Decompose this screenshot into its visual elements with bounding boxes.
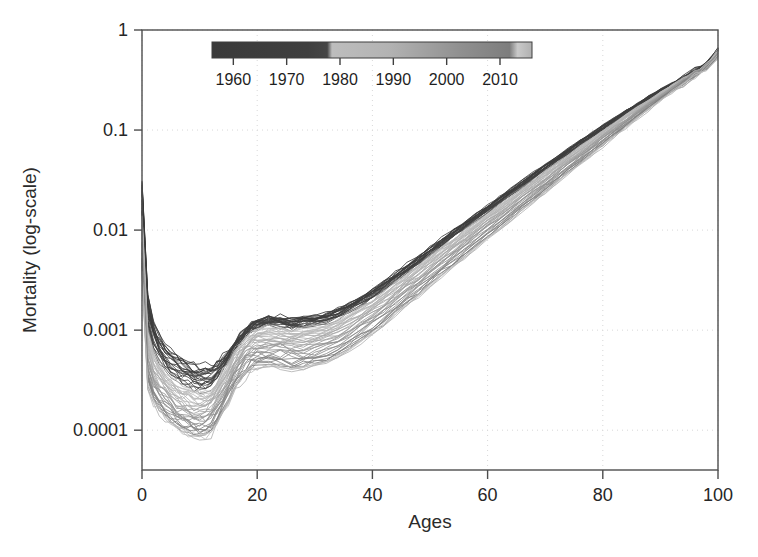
y-tick-label: 0.01 [93, 220, 128, 240]
legend-gradient-bar[interactable] [212, 42, 532, 58]
legend-tick-label: 1980 [322, 71, 358, 88]
legend-tick-label: 1990 [376, 71, 412, 88]
y-tick-label: 0.001 [83, 320, 128, 340]
x-tick-label: 0 [137, 485, 147, 505]
legend-tick-label: 2010 [482, 71, 518, 88]
y-tick-label: 0.1 [103, 120, 128, 140]
y-axis-title: Mortality (log-scale) [19, 167, 40, 333]
x-tick-label: 40 [362, 485, 382, 505]
legend-tick-label: 1960 [216, 71, 252, 88]
y-tick-label: 0.0001 [73, 420, 128, 440]
legend-tick-label: 1970 [269, 71, 305, 88]
chart-canvas: 10.10.010.0010.0001020406080100 19601970… [0, 0, 758, 557]
x-tick-label: 20 [247, 485, 267, 505]
legend-tick-label: 2000 [429, 71, 465, 88]
mortality-chart-figure: 10.10.010.0010.0001020406080100 19601970… [0, 0, 758, 557]
x-tick-label: 80 [593, 485, 613, 505]
x-axis-title: Ages [408, 511, 451, 532]
y-tick-label: 1 [118, 20, 128, 40]
x-tick-label: 60 [478, 485, 498, 505]
x-tick-label: 100 [703, 485, 733, 505]
